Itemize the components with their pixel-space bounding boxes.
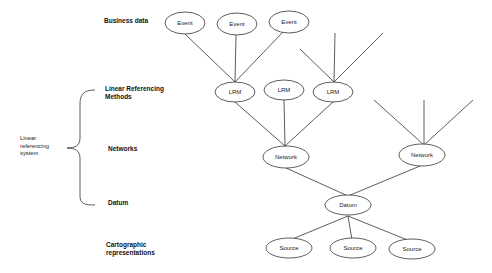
event-label-1: Event [177,20,193,26]
source-label-1: Source [279,245,299,251]
network-label-1: Network [275,154,298,160]
level-networks: Networks [108,145,137,153]
datum-label: Datum [339,202,357,208]
source-label-3: Source [402,246,422,252]
lrm-label-3: LRM [327,89,340,95]
side-label-line3: system [20,150,49,158]
level-business-data: Business data [104,17,148,25]
event-label-3: Event [281,19,297,25]
side-label-line1: Linear [20,135,49,143]
nodes [165,11,445,259]
level-cartographic: Cartographic representations [106,241,155,257]
level-carto-line2: representations [106,249,155,257]
level-lrm-line2: Methods [105,93,164,101]
event-label-2: Event [229,21,245,27]
lrm-label-2: LRM [278,87,291,93]
side-label-line2: referencing [20,143,49,151]
level-datum: Datum [108,199,128,207]
lrm-label-1: LRM [229,89,242,95]
level-lrm-line1: Linear Referencing [105,85,164,93]
diagram-canvas: Event Event Event LRM LRM LRM Network Ne… [0,0,492,273]
level-carto-line1: Cartographic [106,241,155,249]
level-lrm: Linear Referencing Methods [105,85,164,101]
side-label-lrs: Linear referencing system [20,135,49,158]
network-label-2: Network [411,152,434,158]
connectors [67,32,473,241]
source-label-2: Source [343,245,363,251]
